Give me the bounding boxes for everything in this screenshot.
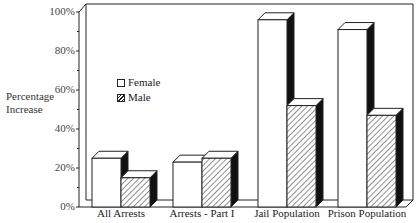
bar-side (316, 99, 323, 207)
bar-male (367, 115, 396, 207)
legend-label-female: Female (128, 75, 160, 90)
legend-item-male: Male (117, 90, 160, 105)
legend: Female Male (117, 75, 160, 105)
plot-area (0, 0, 420, 223)
y-tick-label: 60% (39, 83, 75, 95)
x-tick-label: Prison Population (328, 207, 407, 219)
bar-female (338, 30, 367, 207)
x-tick-label: Jail Population (254, 207, 320, 219)
y-axis-wall (79, 4, 86, 207)
legend-label-male: Male (128, 90, 151, 105)
bar-top (338, 23, 374, 30)
bar-male (287, 106, 316, 207)
y-tick-label: 40% (39, 122, 75, 134)
female-swatch-icon (117, 79, 125, 87)
x-tick-label: All Arrests (97, 207, 145, 219)
bar-side (231, 151, 238, 207)
bar-male (121, 178, 150, 207)
bar-female (258, 20, 287, 207)
y-axis-label-line2: Increase (6, 103, 54, 116)
y-tick-label: 80% (39, 44, 75, 56)
y-tick-label: 100% (39, 5, 75, 17)
bar-top (121, 171, 157, 178)
male-hatched-swatch-icon (117, 94, 125, 102)
bar-top (367, 108, 403, 115)
y-tick-label: 0% (39, 200, 75, 212)
bar-top (287, 99, 323, 106)
bar-female (173, 162, 202, 207)
legend-item-female: Female (117, 75, 160, 90)
bar-top (92, 151, 128, 158)
floor-corner (406, 200, 413, 207)
y-tick-label: 20% (39, 161, 75, 173)
bar-female (92, 158, 121, 207)
bar-side (396, 108, 403, 207)
x-tick-label: Arrests - Part I (169, 207, 234, 219)
bar-top (202, 151, 238, 158)
bar-male (202, 158, 231, 207)
bar-top (258, 13, 294, 20)
bar-chart: Percentage Increase 0%20%40%60%80%100% A… (0, 0, 420, 223)
